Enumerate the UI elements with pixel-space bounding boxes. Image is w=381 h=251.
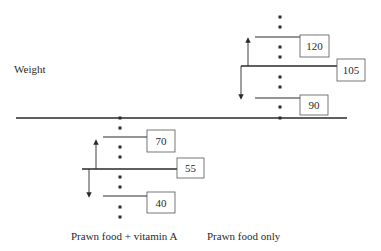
data-point (119, 176, 122, 179)
y-axis-label: Weight (14, 63, 46, 75)
data-point (119, 146, 122, 149)
data-point (279, 46, 282, 49)
data-point (119, 117, 122, 120)
data-point (279, 56, 282, 59)
upper-value: 120 (306, 40, 323, 52)
data-point (279, 26, 282, 29)
data-point (279, 117, 282, 120)
data-point (279, 86, 282, 89)
data-point (119, 186, 122, 189)
weight-comparison-diagram: Weight 705540Prawn food + vitamin A12010… (0, 0, 381, 251)
data-point (119, 156, 122, 159)
upper-value: 70 (156, 135, 168, 147)
group-prawn-food-only: 12010590Prawn food only (207, 16, 365, 243)
group-label: Prawn food only (207, 230, 281, 242)
mean-value: 55 (185, 162, 197, 174)
group-prawn-food-vitamin-a: 705540Prawn food + vitamin A (71, 117, 204, 243)
group-label: Prawn food + vitamin A (71, 230, 177, 242)
diagram-canvas: Weight 705540Prawn food + vitamin A12010… (0, 0, 381, 251)
data-point (119, 216, 122, 219)
lower-value: 90 (309, 99, 321, 111)
data-point (279, 76, 282, 79)
data-point (119, 127, 122, 130)
lower-value: 40 (156, 197, 168, 209)
data-point (279, 16, 282, 19)
data-point (279, 106, 282, 109)
groups: 705540Prawn food + vitamin A12010590Praw… (71, 16, 365, 243)
data-point (119, 206, 122, 209)
mean-value: 105 (343, 64, 360, 76)
